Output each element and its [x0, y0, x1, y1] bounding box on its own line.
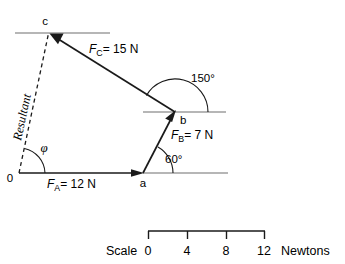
point-label-origin: 0 [7, 172, 13, 184]
vector-label-FC-value: = 15 N [103, 42, 139, 56]
scale-unit-label: Newtons [281, 244, 330, 258]
point-label-a: a [140, 177, 147, 189]
figure-canvas: c b a 0 FC= 15 N FB= 7 N FA= 12 N 150° 6… [0, 0, 345, 264]
scale-tick-label-0: 0 [145, 244, 152, 258]
scale-tick-label-4: 4 [184, 244, 191, 258]
vector-label-FA: FA= 12 N [47, 177, 96, 193]
angle-label-phi: φ [40, 140, 47, 155]
vector-label-FB-value: = 7 N [184, 128, 213, 142]
scale-label: Scale [106, 244, 137, 258]
scale-tick-label-8: 8 [223, 244, 230, 258]
point-label-b: b [180, 114, 186, 126]
point-label-c: c [42, 15, 48, 27]
vector-label-FC: FC= 15 N [89, 42, 138, 58]
scale-tick-label-12: 12 [257, 244, 271, 258]
resultant-label: Resultant [10, 92, 34, 143]
vector-label-FA-value: = 12 N [60, 177, 96, 191]
vector-label-FB: FB= 7 N [171, 128, 213, 144]
scale-bar [148, 231, 265, 239]
vector-diagram: c b a 0 FC= 15 N FB= 7 N FA= 12 N 150° 6… [0, 0, 345, 264]
angle-label-60: 60° [165, 153, 182, 165]
vector-FA-arrowhead [131, 169, 144, 177]
vector-FC-arrowhead [50, 34, 64, 45]
angle-label-150: 150° [191, 72, 215, 84]
